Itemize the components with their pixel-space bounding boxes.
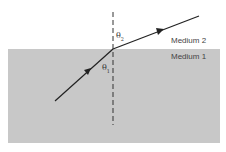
- medium-2-label: Medium 2: [171, 36, 206, 45]
- medium-1-region: [8, 49, 220, 143]
- medium-1-label: Medium 1: [171, 52, 206, 61]
- refraction-diagram: [0, 0, 226, 152]
- theta-2-label: θ2: [116, 31, 124, 42]
- theta-1-label: θ1: [102, 63, 110, 74]
- refracted-arrow-icon: [156, 28, 164, 35]
